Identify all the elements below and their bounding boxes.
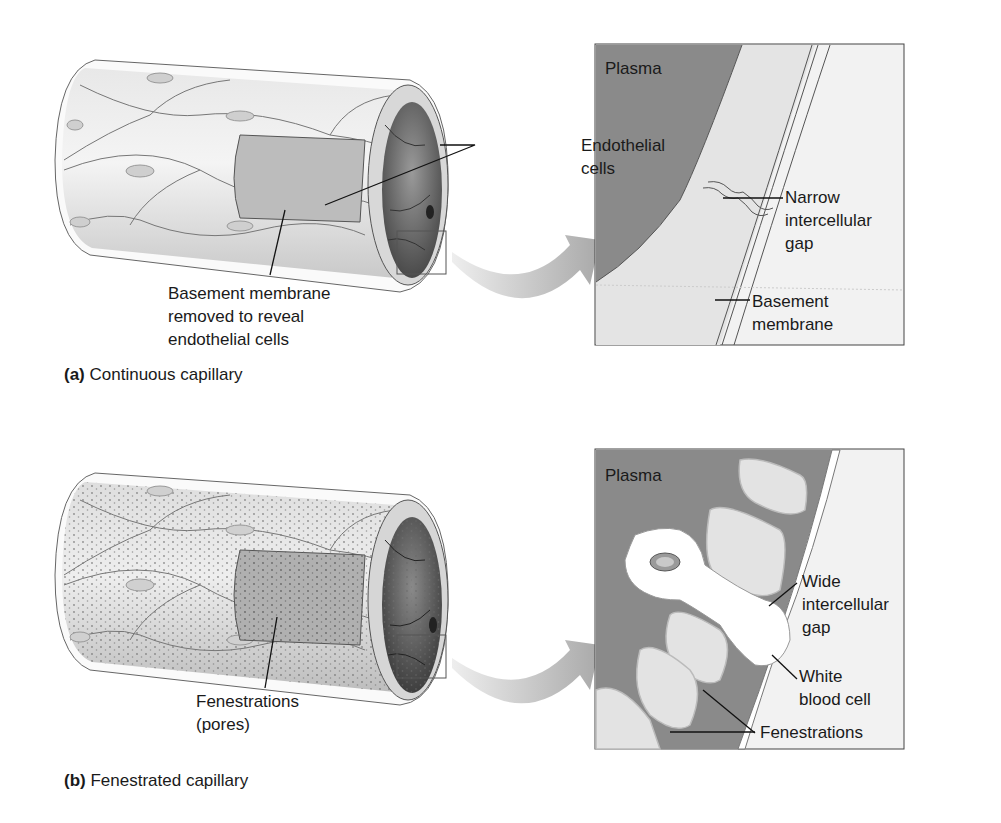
plasma-label-a: Plasma (605, 57, 662, 80)
panel-fenestrated-capillary: Plasma Wide intercellular gap White bloo… (0, 400, 1001, 823)
caption-b-letter: (b) (64, 771, 86, 790)
plasma-label-b: Plasma (605, 464, 662, 487)
panel-continuous-capillary: Endothelial cells Basement membrane remo… (0, 0, 1001, 400)
basement-membrane-label-a: Basement membrane (752, 290, 833, 336)
wide-intercellular-gap-label: Wide intercellular gap (802, 570, 889, 639)
fenestrations-pores-label: Fenestrations (pores) (196, 690, 299, 736)
caption-a-letter: (a) (64, 365, 85, 384)
fenestrations-label-inset: Fenestrations (760, 721, 863, 744)
caption-a: (a) Continuous capillary (64, 365, 243, 385)
caption-b: (b) Fenestrated capillary (64, 771, 248, 791)
basement-membrane-removed-label: Basement membrane removed to reveal endo… (168, 282, 331, 351)
white-blood-cell-label: White blood cell (799, 665, 871, 711)
caption-a-text: Continuous capillary (85, 365, 243, 384)
narrow-intercellular-gap-label: Narrow intercellular gap (785, 186, 872, 255)
caption-b-text: Fenestrated capillary (86, 771, 249, 790)
endothelial-cells-label: Endothelial cells (581, 134, 665, 180)
